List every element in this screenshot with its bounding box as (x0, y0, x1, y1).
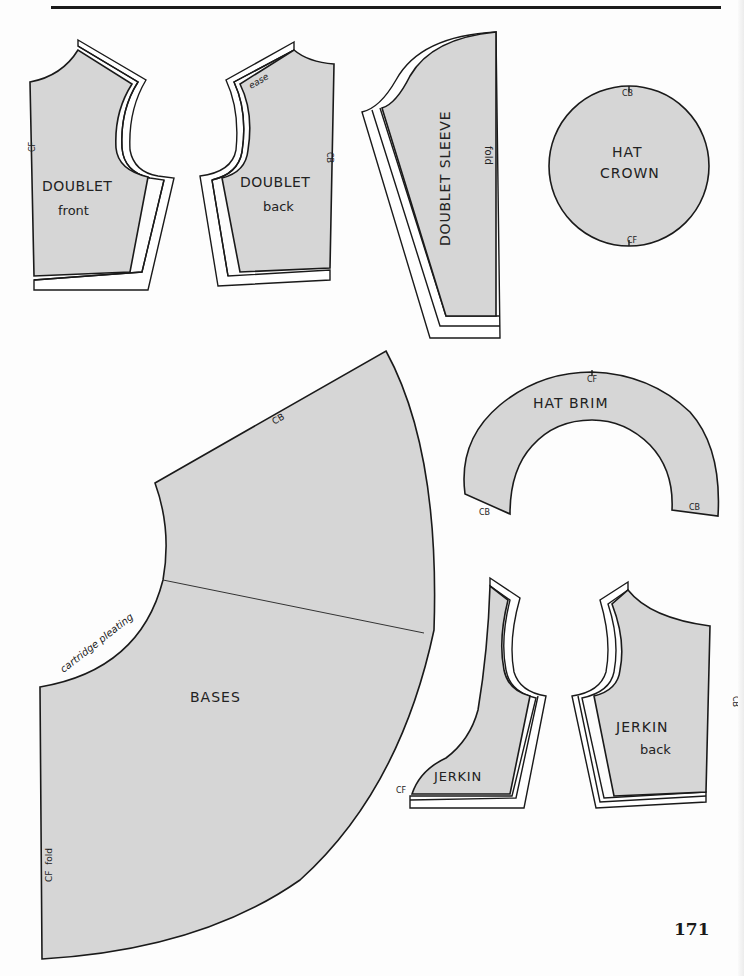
doublet-back-subtitle: back (263, 199, 294, 214)
pattern-page: .piece { fill: #d6d6d6; stroke: #1a1a1a;… (0, 0, 744, 976)
bases-title: BASES (190, 689, 241, 705)
jerkin-back-subtitle: back (640, 742, 671, 757)
hat-brim-cb-left-mark: CB (479, 508, 490, 517)
hat-crown-cb-mark: CB (622, 89, 633, 98)
doublet-front-piece (30, 40, 174, 290)
page-number: 171 (674, 919, 710, 939)
doublet-sleeve-title: DOUBLET SLEEVE (437, 111, 453, 246)
bases-cf-fold-mark: CF fold (44, 848, 54, 882)
hat-crown-title-line2: CROWN (600, 165, 660, 181)
doublet-front-title: DOUBLET (42, 178, 112, 194)
bases-piece (40, 351, 435, 959)
doublet-sleeve-fold-mark: fold (483, 146, 494, 165)
hat-brim-title: HAT BRIM (533, 395, 609, 411)
doublet-front-subtitle: front (58, 203, 89, 218)
jerkin-front-title: JERKIN (434, 769, 482, 784)
hat-brim-cb-right-mark: CB (689, 503, 700, 512)
doublet-front-cf-mark: CF (28, 142, 37, 152)
hat-crown-cf-mark: CF (627, 236, 637, 245)
hat-brim-piece (464, 370, 718, 516)
doublet-back-cb-mark: CB (325, 152, 334, 163)
hat-brim-cf-mark: CF (587, 375, 597, 384)
jerkin-front-cf-mark: CF (396, 786, 406, 795)
jerkin-back-title: JERKIN (616, 719, 668, 735)
jerkin-back-piece (572, 582, 710, 808)
doublet-sleeve-piece (362, 32, 500, 338)
hat-crown-title-line1: HAT (612, 144, 643, 160)
doublet-back-title: DOUBLET (240, 174, 310, 190)
page-edge-shadow (738, 0, 744, 976)
